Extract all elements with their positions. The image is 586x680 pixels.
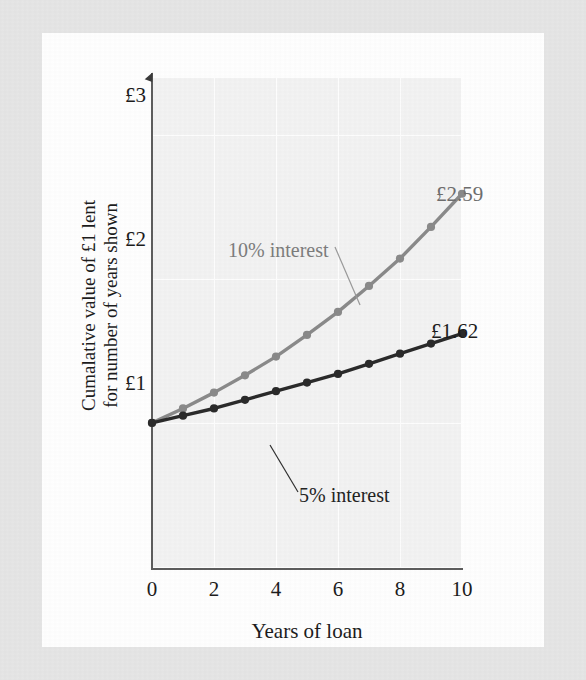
x-tick-label-0: 0 xyxy=(132,579,172,600)
gridline-x-1 xyxy=(214,77,215,567)
gridline-x-4 xyxy=(400,77,401,567)
x-axis-line xyxy=(151,568,463,570)
end-value-label-10-percent: £2.59 xyxy=(436,184,483,205)
series-label-5-percent: 5% interest xyxy=(299,485,390,505)
y-axis-line xyxy=(151,73,153,570)
y-axis-title-line2: for number of years shown xyxy=(100,203,121,408)
x-tick-label-4: 4 xyxy=(256,579,296,600)
scan-border: £1 £2 £3 0 2 4 6 8 10 Years of loan Cuma… xyxy=(0,0,586,680)
gridline-y-3 xyxy=(152,279,462,280)
x-axis-title: Years of loan xyxy=(152,619,462,644)
series-label-10-percent: 10% interest xyxy=(228,240,329,260)
y-axis-title-line1: Cumalative value of £1 lent xyxy=(78,200,99,411)
x-tick-label-6: 6 xyxy=(318,579,358,600)
x-tick-label-2: 2 xyxy=(194,579,234,600)
gridline-x-2 xyxy=(276,77,277,567)
x-tick-label-8: 8 xyxy=(380,579,420,600)
chart-figure: £1 £2 £3 0 2 4 6 8 10 Years of loan Cuma… xyxy=(42,33,544,647)
x-tick-label-10: 10 xyxy=(442,579,482,600)
gridline-y-4 xyxy=(152,423,462,424)
gridline-y-2 xyxy=(152,135,462,136)
y-axis-title: Cumalative value of £1 lent for number o… xyxy=(78,95,123,515)
end-value-label-5-percent: £1.62 xyxy=(431,321,478,342)
gridline-y-1 xyxy=(152,77,462,78)
